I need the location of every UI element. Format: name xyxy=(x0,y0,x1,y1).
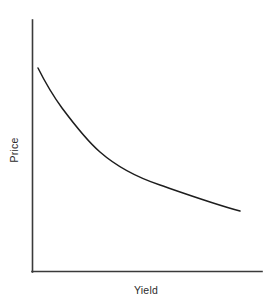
y-axis-label: Price xyxy=(8,138,20,163)
data-curve-price-yield xyxy=(38,68,240,211)
x-axis-label: Yield xyxy=(134,284,158,296)
chart-plot-area xyxy=(0,0,275,306)
chart-figure: Price Yield xyxy=(0,0,275,306)
